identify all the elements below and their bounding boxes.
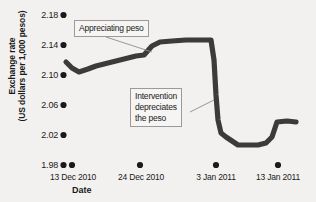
y-tick-label: 2.02 [24, 130, 58, 140]
y-tick-label: 2.18 [24, 10, 58, 20]
leader-line-intervention [190, 100, 214, 112]
y-tick-label: 1.98 [24, 160, 58, 170]
annotation-intervention: Intervention depreciates the peso [130, 88, 182, 127]
y-tick-label: 2.14 [24, 40, 58, 50]
annotation-appreciating-peso-line1: Appreciating peso [79, 23, 144, 34]
y-tick-dot [60, 12, 66, 18]
x-axis-title: Date [72, 185, 92, 195]
x-tick-dot [213, 162, 219, 168]
y-tick-dot [60, 42, 66, 48]
x-tick-dot [69, 162, 75, 168]
y-tick-dot [60, 72, 66, 78]
annotation-intervention-line2: depreciates [135, 102, 177, 113]
y-tick-dot [60, 132, 66, 138]
x-tick-dot [137, 162, 143, 168]
x-tick-dot [275, 162, 281, 168]
leader-line-appreciating [106, 37, 152, 52]
annotation-intervention-line3: the peso [135, 113, 177, 124]
annotation-intervention-line1: Intervention [135, 91, 177, 102]
y-tick-dot [60, 162, 66, 168]
y-tick-label: 2.10 [24, 70, 58, 80]
x-tick-label: 24 Dec 2010 [96, 172, 186, 182]
annotation-appreciating-peso: Appreciating peso [74, 20, 149, 37]
y-tick-dot [60, 102, 66, 108]
y-tick-label: 2.06 [24, 100, 58, 110]
x-tick-label: 13 Jan 2011 [238, 172, 316, 182]
